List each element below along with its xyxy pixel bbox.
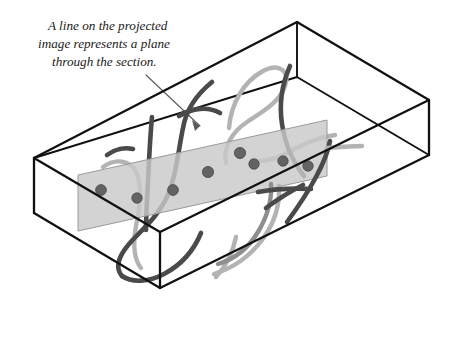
caption-line-1: A line on the projected <box>47 18 168 33</box>
intersection-dot <box>278 156 288 166</box>
intersection-dot <box>234 147 245 158</box>
intersection-dot <box>132 193 142 203</box>
caption-line-3: through the section. <box>52 54 157 69</box>
diagram-canvas: A line on the projected image represents… <box>0 0 454 362</box>
intersection-dot <box>96 185 107 196</box>
intersection-dot <box>202 166 213 177</box>
section-plane <box>78 120 327 231</box>
intersection-dot <box>168 185 179 196</box>
caption-line-2: image represents a plane <box>38 36 170 51</box>
figure-root: A line on the projected image represents… <box>0 0 454 362</box>
intersection-dot <box>249 159 259 169</box>
fiber-dark-stub-left <box>107 148 133 155</box>
fiber-dark-horiz-right <box>258 189 311 192</box>
caption-block: A line on the projected image represents… <box>38 18 170 69</box>
